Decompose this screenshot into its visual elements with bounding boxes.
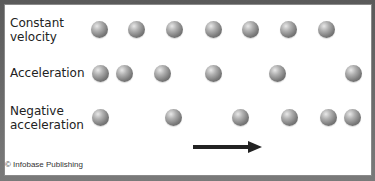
credit-text: © Infobase Publishing <box>5 160 83 169</box>
arrow-head <box>248 141 262 153</box>
direction-arrow-icon <box>0 0 375 181</box>
